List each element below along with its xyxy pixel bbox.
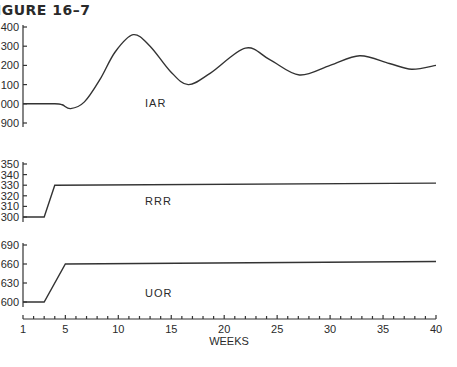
y-tick-label: 300 [1,211,19,223]
y-tick-label: 200 [1,59,19,71]
y-tick-label: 400 [1,21,19,33]
y-tick-label: 600 [1,296,19,308]
x-tick-label: 35 [377,323,389,335]
x-tick-label: 25 [271,323,283,335]
series-label-uor: UOR [145,287,172,299]
y-tick-label: 660 [1,258,19,270]
series-line-uor [23,261,436,302]
x-axis: 1510152025303540WEEKS [20,315,442,347]
series-line-iar [23,35,436,109]
y-tick-label: 630 [1,277,19,289]
y-tick-label: 900 [1,117,19,129]
chart-canvas: 400300200100000900IAR 350340330320310300… [0,0,457,367]
x-axis-title: WEEKS [209,335,249,347]
x-tick-label: 20 [218,323,230,335]
series-label-rrr: RRR [145,195,172,207]
y-tick-label: 100 [1,79,19,91]
y-tick-label: 000 [1,98,19,110]
series-line-rrr [23,183,436,217]
x-tick-label: 40 [430,323,442,335]
x-tick-label: 5 [62,323,68,335]
series-label-iar: IAR [145,97,166,109]
panel-rrr: 350340330320310300RRR [1,158,436,223]
y-tick-label: 690 [1,239,19,251]
panel-uor: 690660630600UOR [1,239,436,308]
panel-iar: 400300200100000900IAR [1,21,436,129]
y-tick-label: 300 [1,40,19,52]
x-tick-label: 30 [324,323,336,335]
x-tick-label: 10 [112,323,124,335]
x-tick-label: 15 [165,323,177,335]
x-tick-label: 1 [20,323,26,335]
